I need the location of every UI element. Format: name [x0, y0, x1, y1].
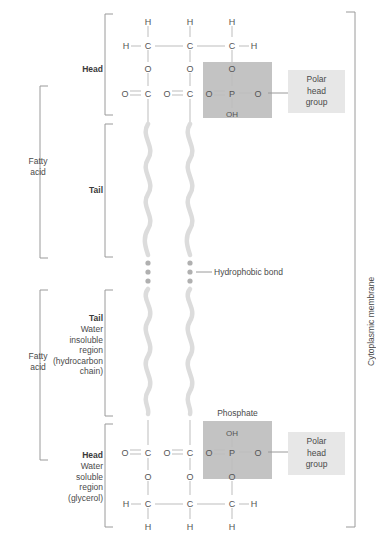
- atom-label: O: [121, 89, 128, 99]
- atom-label: C: [145, 448, 152, 458]
- fatty-acid-tail-3: [146, 289, 151, 414]
- label-fatty-acid-top: Fatty acid: [10, 156, 66, 177]
- fatty-acid-tail-2: [187, 124, 192, 255]
- atom-label: H: [145, 17, 152, 27]
- label-head-top: Head: [50, 64, 103, 75]
- atom-label: O: [228, 472, 235, 482]
- atom-label: O: [254, 448, 261, 458]
- label-tail-bottom: Tail: [40, 313, 103, 324]
- hydrophobic-dot: [145, 260, 150, 265]
- bracket-cytoplasmic-membrane: [346, 12, 355, 527]
- atom-label: C: [145, 41, 152, 51]
- atom-label: O: [163, 448, 170, 458]
- label-head-bottom: Head: [40, 450, 103, 461]
- atom-label: C: [229, 41, 236, 51]
- atom-label: C: [229, 499, 236, 509]
- atom-label: C: [187, 499, 194, 509]
- fatty-acid-tail-4: [188, 289, 193, 414]
- atom-label: O: [186, 64, 193, 74]
- bracket-tail-top: [105, 124, 113, 257]
- atom-label: H: [229, 17, 236, 27]
- atom-label: H: [123, 41, 130, 51]
- atom-label: H: [251, 499, 258, 509]
- label-cytoplasmic-membrane: Cytoplasmic membrane: [366, 277, 376, 366]
- label-tail-bottom-detail: Water insoluble region (hydrocarbon chai…: [30, 324, 103, 377]
- atom-label: C: [145, 89, 152, 99]
- atom-label: O: [205, 89, 212, 99]
- hydrophobic-dot: [187, 278, 192, 283]
- atom-label: C: [187, 41, 194, 51]
- hydrophobic-dot: [187, 260, 192, 265]
- atom-label: H: [187, 17, 194, 27]
- atom-label: O: [163, 89, 170, 99]
- hydrophobic-dot: [187, 269, 192, 274]
- atom-label: H: [229, 522, 236, 532]
- atom-label: O: [228, 64, 235, 74]
- atom-label: P: [229, 89, 235, 99]
- label-polar-head-group-bottom: Polar head group: [288, 436, 345, 471]
- atom-label: O: [205, 448, 212, 458]
- atom-label: O: [121, 448, 128, 458]
- atom-label: H: [187, 522, 194, 532]
- label-polar-head-group-top: Polar head group: [288, 74, 345, 109]
- label-phosphate: Phosphate: [203, 408, 272, 419]
- atom-label: O: [144, 472, 151, 482]
- hydrophobic-dot: [145, 269, 150, 274]
- atom-label: O: [254, 89, 261, 99]
- bracket-head-top: [105, 14, 113, 115]
- atom-label-oh: OH: [226, 110, 238, 119]
- atom-label: C: [187, 448, 194, 458]
- atom-label: C: [187, 89, 194, 99]
- atom-label: C: [145, 499, 152, 509]
- atom-label-oh: OH: [226, 429, 238, 438]
- atom-label: O: [186, 472, 193, 482]
- label-head-bottom-detail: Water soluble region (glycerol): [30, 461, 103, 503]
- bracket-head-bottom: [105, 424, 113, 527]
- atom-label: H: [123, 499, 130, 509]
- fatty-acid-tail-1: [145, 124, 150, 255]
- atom-label: O: [144, 64, 151, 74]
- hydrophobic-dot: [145, 278, 150, 283]
- atom-label: H: [251, 41, 258, 51]
- bracket-tail-bottom: [105, 290, 113, 416]
- label-hydrophobic-bond: Hydrophobic bond: [214, 267, 283, 278]
- atom-label: P: [229, 448, 235, 458]
- atom-label: H: [145, 522, 152, 532]
- label-tail-top: Tail: [50, 185, 103, 196]
